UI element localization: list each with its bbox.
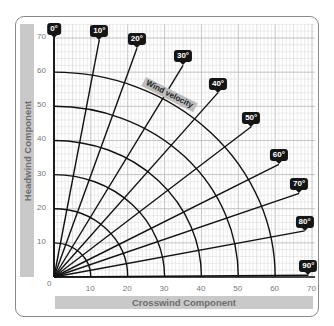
- angle-badge-0: 0°: [47, 23, 61, 35]
- y-tick-10: 10: [37, 237, 46, 246]
- angle-badge-60: 60°: [270, 149, 288, 161]
- y-tick-50: 50: [37, 100, 46, 109]
- angle-badge-80: 80°: [296, 216, 314, 228]
- x-tick-70: 70: [307, 284, 316, 293]
- angle-badge-50: 50°: [242, 112, 260, 124]
- x-tick-30: 30: [160, 284, 169, 293]
- angle-line-10: [54, 40, 99, 277]
- x-tick-60: 60: [270, 284, 279, 293]
- x-tick-10: 10: [86, 284, 95, 293]
- y-tick-20: 20: [37, 203, 46, 212]
- angle-badge-20: 20°: [128, 33, 146, 45]
- x-tick-50: 50: [233, 284, 242, 293]
- angle-badge-90: 90°: [299, 260, 317, 272]
- x-tick-0: 0: [47, 279, 51, 288]
- crosswind-chart: [0, 0, 334, 326]
- angle-badge-30: 30°: [174, 50, 192, 62]
- x-tick-20: 20: [123, 284, 132, 293]
- angle-badge-10: 10°: [90, 25, 108, 37]
- y-tick-60: 60: [37, 66, 46, 75]
- angle-badge-70: 70°: [290, 178, 308, 190]
- y-tick-70: 70: [37, 32, 46, 41]
- angle-badge-40: 40°: [209, 78, 227, 90]
- x-tick-40: 40: [196, 284, 205, 293]
- y-tick-30: 30: [37, 169, 46, 178]
- y-tick-40: 40: [37, 134, 46, 143]
